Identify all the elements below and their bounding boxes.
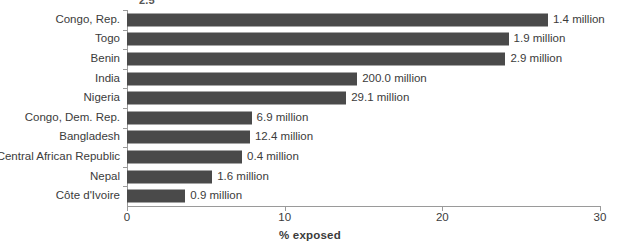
bar-row: Congo, Rep.1.4 million	[127, 10, 600, 30]
category-label: India	[95, 73, 120, 85]
category-label: Nepal	[90, 171, 120, 183]
bar	[127, 190, 185, 203]
bar-value-label: 2.9 million	[510, 53, 562, 65]
bar-row: Central African Republic0.4 million	[127, 147, 600, 167]
bar-row: Bangladesh12.4 million	[127, 128, 600, 148]
bar-value-label: 200.0 million	[362, 73, 427, 85]
bar-value-label: 0.9 million	[190, 190, 242, 202]
clipped-top-text: 2.5	[139, 0, 155, 6]
y-axis-tick	[123, 49, 127, 50]
bar-row: India200.0 million	[127, 69, 600, 89]
bar-value-label: 1.4 million	[553, 14, 605, 26]
bar-row: Côte d'Ivoire0.9 million	[127, 186, 600, 206]
bar-value-label: 6.9 million	[257, 112, 309, 124]
y-axis-tick	[123, 108, 127, 109]
y-axis-tick	[123, 167, 127, 168]
bar-value-label: 12.4 million	[255, 132, 313, 144]
y-axis-tick	[123, 128, 127, 129]
bar	[127, 92, 346, 105]
x-axis-tick-label: 10	[278, 212, 291, 224]
bar	[127, 33, 509, 46]
bar	[127, 170, 212, 183]
x-axis-tick-label: 20	[436, 212, 449, 224]
bar-value-label: 29.1 million	[351, 92, 409, 104]
x-axis-tick-label: 0	[124, 212, 130, 224]
category-label: Congo, Dem. Rep.	[25, 112, 120, 124]
bar	[127, 72, 357, 85]
category-label: Togo	[95, 34, 120, 46]
category-label: Benin	[91, 53, 120, 65]
bar-value-label: 0.4 million	[247, 151, 299, 163]
y-axis-tick	[123, 186, 127, 187]
bar-row: Benin2.9 million	[127, 49, 600, 69]
category-label: Bangladesh	[59, 132, 120, 144]
bar	[127, 150, 242, 163]
category-label: Congo, Rep.	[55, 14, 120, 26]
bar	[127, 131, 250, 144]
category-label: Central African Republic	[0, 151, 120, 163]
bar-value-label: 1.9 million	[514, 34, 566, 46]
y-axis-tick	[123, 69, 127, 70]
category-label: Nigeria	[84, 92, 120, 104]
bar-chart: 2.5 Congo, Rep.1.4 millionTogo1.9 millio…	[0, 0, 620, 246]
y-axis-tick	[123, 88, 127, 89]
x-axis-spine	[127, 206, 601, 207]
bar-row: Nigeria29.1 million	[127, 88, 600, 108]
bar	[127, 52, 505, 65]
bar-row: Togo1.9 million	[127, 30, 600, 50]
y-axis-tick	[123, 147, 127, 148]
x-axis-title: % exposed	[0, 229, 620, 241]
y-axis-tick	[123, 30, 127, 31]
bar-row: Nepal1.6 million	[127, 167, 600, 187]
y-axis-tick	[123, 10, 127, 11]
bar	[127, 111, 252, 124]
plot-area: Congo, Rep.1.4 millionTogo1.9 millionBen…	[127, 10, 600, 206]
bar-row: Congo, Dem. Rep.6.9 million	[127, 108, 600, 128]
x-axis-tick-label: 30	[594, 212, 607, 224]
bar	[127, 13, 548, 26]
bar-value-label: 1.6 million	[217, 171, 269, 183]
category-label: Côte d'Ivoire	[56, 190, 120, 202]
